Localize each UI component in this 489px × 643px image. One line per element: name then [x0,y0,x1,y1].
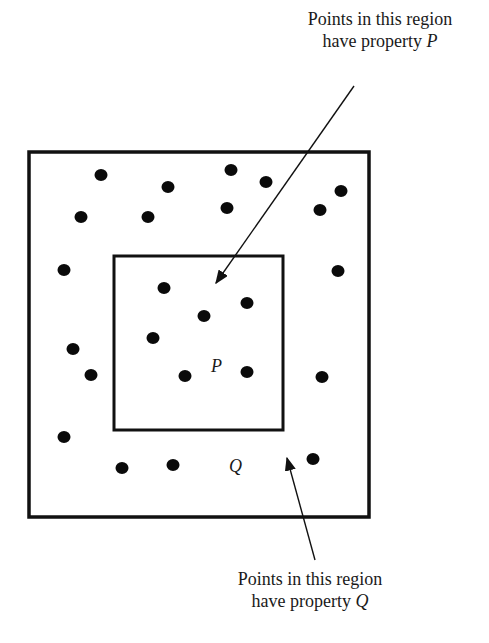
outer-point [316,371,329,383]
inner-region-box [114,256,283,430]
inner-point [241,366,254,378]
outer-point [307,453,320,465]
outer-point [58,264,71,276]
inner-point [158,282,171,294]
inner-point [179,370,192,382]
inner-region-letter: P [211,356,222,377]
outer-point [332,265,345,277]
bottom-annotation-line2: have property Q [200,590,420,612]
outer-point [221,202,234,214]
outer-point [85,369,98,381]
outer-point [58,431,71,443]
outer-point [116,462,129,474]
outer-point [335,185,348,197]
outer-point [162,181,175,193]
outer-point [95,169,108,181]
inner-point [198,310,211,322]
points-group [58,164,348,474]
outer-point [75,211,88,223]
inner-point [241,297,254,309]
inner-point [147,332,160,344]
arrow-to-outer-region [287,458,315,560]
outer-point [167,459,180,471]
outer-point [314,204,327,216]
outer-region-letter: Q [229,456,242,477]
bottom-annotation-line1: Points in this region [200,568,420,590]
outer-point [260,176,273,188]
bottom-annotation: Points in this region have property Q [200,568,420,612]
outer-point [142,211,155,223]
diagram-canvas [0,0,489,643]
outer-point [225,164,238,176]
arrow-to-inner-region [216,86,354,283]
outer-point [67,343,80,355]
